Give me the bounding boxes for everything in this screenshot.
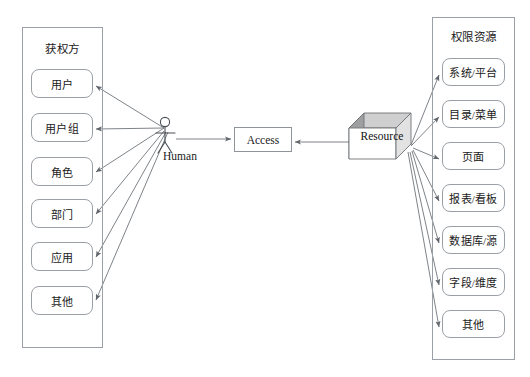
node-user-group-label: 用户组 bbox=[45, 120, 79, 136]
diagram-canvas: 获权方 用户 用户组 角色 部门 应用 其他 Human Access Reso… bbox=[0, 0, 530, 377]
node-page[interactable]: 页面 bbox=[442, 142, 505, 170]
node-field-dimension-label: 字段/维度 bbox=[449, 274, 497, 290]
node-system-platform[interactable]: 系统/平台 bbox=[442, 58, 505, 86]
node-user-group[interactable]: 用户组 bbox=[31, 113, 93, 142]
access-label: Access bbox=[247, 134, 280, 146]
node-report-board[interactable]: 报表/看板 bbox=[442, 184, 505, 212]
node-report-board-label: 报表/看板 bbox=[449, 190, 497, 206]
right-panel-title: 权限资源 bbox=[433, 28, 514, 44]
node-user-label: 用户 bbox=[51, 76, 73, 92]
node-department[interactable]: 部门 bbox=[31, 199, 93, 228]
node-other-right[interactable]: 其他 bbox=[442, 310, 505, 338]
node-role-label: 角色 bbox=[51, 164, 73, 180]
node-application-label: 应用 bbox=[51, 249, 73, 265]
access-box[interactable]: Access bbox=[234, 127, 292, 152]
node-department-label: 部门 bbox=[51, 206, 73, 222]
node-other-right-label: 其他 bbox=[462, 316, 484, 332]
node-menu-catalog-label: 目录/菜单 bbox=[449, 106, 497, 122]
edge-human-to-user bbox=[96, 86, 164, 128]
node-other-left[interactable]: 其他 bbox=[31, 286, 93, 315]
left-panel-title: 获权方 bbox=[23, 40, 102, 56]
node-role[interactable]: 角色 bbox=[31, 157, 93, 186]
node-database-source[interactable]: 数据库/源 bbox=[442, 226, 505, 254]
stick-figure-icon bbox=[156, 117, 175, 153]
node-menu-catalog[interactable]: 目录/菜单 bbox=[442, 100, 505, 128]
human-label: Human bbox=[150, 150, 210, 162]
edge-human-to-department bbox=[96, 131, 164, 214]
node-user[interactable]: 用户 bbox=[31, 69, 93, 98]
node-page-label: 页面 bbox=[462, 148, 484, 164]
node-system-platform-label: 系统/平台 bbox=[449, 64, 497, 80]
edge-human-to-usergroup bbox=[96, 128, 164, 129]
node-application[interactable]: 应用 bbox=[31, 242, 93, 271]
node-database-source-label: 数据库/源 bbox=[449, 232, 497, 248]
node-other-left-label: 其他 bbox=[51, 293, 73, 309]
resource-label: Resource bbox=[352, 130, 412, 142]
node-field-dimension[interactable]: 字段/维度 bbox=[442, 268, 505, 296]
